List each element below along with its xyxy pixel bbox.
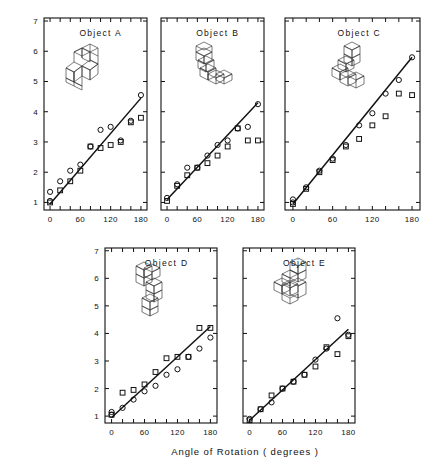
block-face <box>208 68 216 80</box>
block-face <box>282 282 290 294</box>
data-point-circle <box>88 144 93 149</box>
panel-title-a: Object A <box>79 28 122 38</box>
x-tick-label: 60 <box>278 428 288 437</box>
data-point-square <box>396 91 401 96</box>
x-tick-label: 60 <box>193 215 203 224</box>
x-tick-label: 120 <box>308 428 323 437</box>
block-face <box>344 54 352 66</box>
data-point-square <box>215 153 220 158</box>
data-point-circle <box>343 142 348 147</box>
x-tick-label: 60 <box>76 215 86 224</box>
block-face <box>142 294 158 302</box>
data-point-circle <box>225 138 230 143</box>
block-figure-d <box>136 262 162 316</box>
data-point-circle <box>186 354 191 359</box>
x-tick-label: 0 <box>165 215 170 224</box>
data-point-circle <box>153 383 158 388</box>
block-face <box>136 274 144 286</box>
block-face <box>352 54 360 66</box>
data-point-circle <box>58 179 63 184</box>
y-tick-label: 1 <box>33 198 38 207</box>
data-point-circle <box>330 156 335 161</box>
panel-group: 0601201801234567Object A060120180Object … <box>33 17 420 437</box>
data-point-square <box>120 390 125 395</box>
x-tick-label: 60 <box>328 215 338 224</box>
data-point-circle <box>138 93 143 98</box>
x-tick-label: 180 <box>405 215 420 224</box>
data-point-circle <box>47 189 52 194</box>
panel-b: 060120180Object B <box>161 18 265 224</box>
data-point-square <box>139 115 144 120</box>
panel-frame-e <box>243 248 355 423</box>
y-tick-label: 5 <box>94 302 99 311</box>
data-point-circle <box>335 316 340 321</box>
data-point-circle <box>245 124 250 129</box>
data-point-circle <box>128 118 133 123</box>
block-face <box>196 48 212 56</box>
block-face <box>196 42 212 50</box>
data-point-circle <box>175 182 180 187</box>
data-point-circle <box>142 389 147 394</box>
data-point-square <box>164 356 169 361</box>
block-face <box>90 52 98 64</box>
block-figure-a <box>66 44 98 90</box>
x-tick-label: 180 <box>251 215 266 224</box>
block-face <box>338 60 346 72</box>
x-tick-label: 0 <box>109 428 114 437</box>
panel-a: 0601201801234567Object A <box>33 17 148 224</box>
y-tick-label: 2 <box>94 385 99 394</box>
data-point-circle <box>98 127 103 132</box>
mental-rotation-figure: Mean Reaction Time for "same" Pairs ( se… <box>0 0 436 468</box>
block-face <box>274 282 282 294</box>
y-tick-label: 4 <box>94 329 99 338</box>
x-tick-label: 120 <box>103 215 118 224</box>
block-face <box>66 78 74 86</box>
panel-d: 0601201801234567Object D <box>94 247 218 437</box>
block-face <box>204 52 212 64</box>
block-face <box>332 64 348 72</box>
block-face <box>74 66 82 82</box>
y-tick-label: 7 <box>33 17 38 26</box>
data-point-circle <box>235 126 240 131</box>
data-point-square <box>370 123 375 128</box>
data-point-square <box>205 161 210 166</box>
data-point-circle <box>383 91 388 96</box>
panel-title-b: Object B <box>196 28 239 38</box>
plot-canvas: 0601201801234567Object A060120180Object … <box>0 0 436 468</box>
data-point-circle <box>118 138 123 143</box>
x-tick-label: 0 <box>291 215 296 224</box>
block-face <box>150 306 158 316</box>
block-face <box>208 74 216 84</box>
data-point-square <box>225 144 230 149</box>
panel-e: 060120180Object E <box>243 248 356 437</box>
x-tick-label: 180 <box>203 428 218 437</box>
data-point-square <box>245 138 250 143</box>
block-face <box>206 60 214 72</box>
y-tick-label: 1 <box>94 412 99 421</box>
block-face <box>74 82 82 90</box>
block-face <box>216 74 224 84</box>
x-tick-label: 180 <box>134 215 149 224</box>
data-point-square <box>197 326 202 331</box>
block-face <box>66 62 82 72</box>
data-point-circle <box>164 372 169 377</box>
block-face <box>146 290 154 302</box>
regression-line-e <box>250 329 349 420</box>
block-face <box>348 74 356 86</box>
data-point-circle <box>208 335 213 340</box>
block-face <box>216 74 224 84</box>
block-figure-b <box>196 42 232 84</box>
x-axis-title: Angle of Rotation ( degrees ) <box>171 446 319 457</box>
panel-frame-b <box>161 18 264 210</box>
y-tick-label: 4 <box>33 108 38 117</box>
x-tick-label: 120 <box>170 428 185 437</box>
y-tick-label: 2 <box>33 168 38 177</box>
data-point-square <box>335 352 340 357</box>
panel-frame-c <box>285 18 420 210</box>
data-point-square <box>153 370 158 375</box>
data-point-circle <box>396 77 401 82</box>
regression-line-c <box>293 57 412 204</box>
data-point-square <box>357 137 362 142</box>
y-tick-label: 3 <box>33 138 38 147</box>
data-point-square <box>313 364 318 369</box>
